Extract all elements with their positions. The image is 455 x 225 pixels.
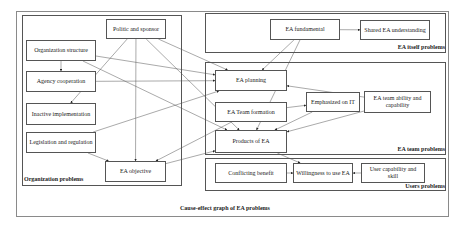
node-ea-fundamental: EA fundamental — [270, 19, 340, 40]
node-ea-planning: EA planning — [215, 70, 287, 91]
edge-ea_fundamental-to-ea_planning — [262, 40, 294, 70]
node-organization-structure: Organization structure — [26, 40, 96, 61]
node-emphasized-on-it: Emphasized on IT — [306, 92, 360, 112]
node-willingness-to-use-ea: Willingness to use EA — [293, 163, 353, 183]
edge-legislation_regulation-to-ea_objective — [88, 153, 109, 161]
node-conflicting-benefit: Conflicting benefit — [215, 163, 287, 183]
edge-politic_sponsor-to-ea_planning — [158, 39, 227, 70]
edge-products_of_ea-to-willingness_use_ea — [277, 153, 300, 163]
edge-ea_objective-to-products_of_ea — [166, 151, 215, 164]
node-user-capability-and-skill: User capability and skill — [361, 163, 425, 183]
node-legislation-and-regulation: Legislation and regulation — [26, 132, 96, 153]
node-agency-cooperation: Agency cooperation — [26, 71, 96, 92]
node-shared-ea-understanding: Shared EA understanding — [360, 20, 430, 40]
node-ea-team-formation: EA Team formation — [215, 102, 287, 122]
node-politic-and-sponsor: Politic and sponsor — [106, 19, 166, 39]
group-label-users: Users problems — [405, 183, 445, 189]
edge-ea_team_formation-to-emphasized_it — [287, 105, 306, 107]
edge-ea_team_ability-to-products_of_ea — [287, 111, 364, 132]
node-products-of-ea: Products of EA — [215, 130, 287, 153]
node-inactive-implementation: Inactive implementation — [26, 103, 96, 125]
edge-legislation_regulation-to-ea_planning — [93, 91, 219, 132]
node-ea-objective: EA objective — [105, 161, 166, 182]
group-label-ea-team: EA team problems — [397, 146, 445, 152]
edge-org_structure-to-ea_planning — [96, 56, 215, 75]
node-ea-team-ability-and-capability: EA team ability and capability — [364, 91, 431, 113]
group-label-organization: Organization problems — [24, 176, 83, 182]
edge-agency_cooperation-to-ea_planning — [96, 81, 215, 82]
group-label-ea-itself: EA itself problems — [398, 44, 445, 50]
